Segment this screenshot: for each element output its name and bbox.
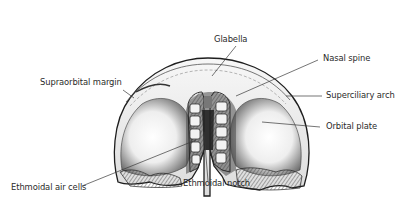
label-superciliary-arch: Superciliary arch	[326, 90, 395, 100]
label-glabella: Glabella	[214, 34, 247, 44]
label-supraorbital-margin: Supraorbital margin	[40, 77, 122, 87]
frontal-bone-illustration	[0, 0, 406, 200]
label-nasal-spine: Nasal spine	[323, 53, 370, 63]
anatomy-diagram: Glabella Nasal spine Supraorbital margin…	[0, 0, 406, 200]
label-ethmoidal-air-cells: Ethmoidal air cells	[11, 182, 86, 192]
label-ethmoidal-notch: Ethmoidal notch	[183, 178, 250, 188]
label-orbital-plate: Orbital plate	[326, 121, 377, 131]
